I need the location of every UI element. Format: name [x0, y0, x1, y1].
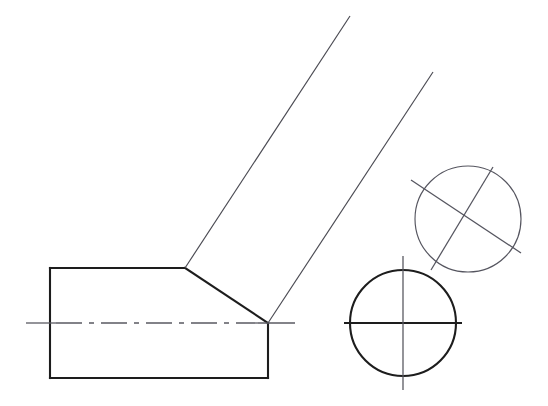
arm-left-edge: [185, 16, 350, 268]
body-chamfer-edge: [185, 268, 268, 323]
upper-circle-descending-centerline: [411, 180, 521, 253]
upper-section-circle: [415, 166, 521, 272]
section-view-lower-circle: [344, 256, 462, 390]
upper-circle-ascending-centerline: [431, 167, 493, 270]
drawing-canvas: Bent cylindrical part - orthographic tec…: [0, 0, 548, 406]
section-view-upper-circle: [411, 166, 521, 272]
arm-right-edge: [268, 72, 433, 323]
technical-drawing-svg: Bent cylindrical part - orthographic tec…: [0, 0, 548, 406]
